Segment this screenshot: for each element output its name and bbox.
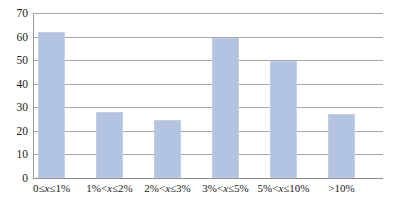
y-tick-label: 50: [2, 55, 28, 67]
bar: [212, 38, 239, 178]
gridline-0-baseline: [33, 178, 383, 179]
bar: [38, 32, 65, 178]
bar: [96, 112, 123, 178]
y-tick-label: 70: [2, 8, 28, 20]
x-category-label: 0≤x≤1%: [23, 181, 81, 195]
bar-series: [33, 13, 383, 178]
bar: [154, 120, 181, 178]
y-tick-label: 20: [2, 126, 28, 138]
x-category-label: 1%<x≤2%: [81, 181, 139, 195]
bar-chart: 70 60 50 40 30 20 10 0 0≤x≤1%1%<x≤2%2%<x…: [0, 0, 400, 201]
bar: [328, 114, 355, 178]
x-category-label: 5%<x≤10%: [255, 181, 313, 195]
y-tick-label: 40: [2, 79, 28, 91]
x-category-label: 3%<x≤5%: [197, 181, 255, 195]
y-tick-label: 10: [2, 149, 28, 161]
x-category-label: 2%<x≤3%: [139, 181, 197, 195]
y-tick-label: 30: [2, 102, 28, 114]
x-category-label: >10%: [313, 181, 371, 195]
bar: [270, 61, 297, 178]
y-tick-label: 60: [2, 32, 28, 44]
x-axis-category-labels: 0≤x≤1%1%<x≤2%2%<x≤3%3%<x≤5%5%<x≤10%>10%: [0, 181, 400, 201]
